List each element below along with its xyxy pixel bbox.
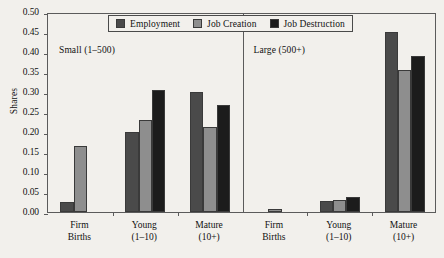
bar bbox=[333, 200, 346, 212]
legend-swatch-icon bbox=[116, 19, 125, 28]
y-axis-tick-label: 0.30 bbox=[5, 88, 39, 98]
x-axis-tick-mark bbox=[113, 212, 114, 216]
panel-title: Small (1–500) bbox=[59, 45, 115, 55]
bar bbox=[125, 132, 138, 212]
y-axis-tick-label: 0.35 bbox=[5, 68, 39, 78]
legend-label: Job Creation bbox=[207, 19, 256, 29]
bar bbox=[268, 209, 281, 212]
y-axis-tick-label: 0.05 bbox=[5, 188, 39, 198]
y-axis-tick-mark bbox=[44, 134, 48, 135]
legend-label: Job Destruction bbox=[284, 19, 345, 29]
x-axis-tick-mark bbox=[178, 212, 179, 216]
chart-legend: EmploymentJob CreationJob Destruction bbox=[108, 15, 353, 32]
panel-divider bbox=[243, 14, 244, 212]
legend-item[interactable]: Job Destruction bbox=[270, 19, 345, 29]
y-axis-tick-mark bbox=[44, 54, 48, 55]
y-axis-tick-mark bbox=[44, 14, 48, 15]
bar bbox=[139, 120, 152, 212]
y-axis-tick-label: 0.50 bbox=[5, 8, 39, 18]
bar bbox=[398, 70, 411, 212]
x-axis-tick-label-line: Mature bbox=[364, 220, 444, 232]
bar bbox=[217, 105, 230, 212]
bar bbox=[203, 127, 216, 212]
legend-label: Employment bbox=[130, 19, 180, 29]
x-axis-tick-mark bbox=[372, 212, 373, 216]
y-axis-tick-mark bbox=[44, 114, 48, 115]
y-axis-tick-mark bbox=[44, 174, 48, 175]
y-axis-tick-mark bbox=[44, 154, 48, 155]
y-axis-tick-mark bbox=[44, 194, 48, 195]
x-axis-tick-label: Mature(10+) bbox=[364, 220, 444, 243]
bar bbox=[152, 90, 165, 212]
bar bbox=[385, 32, 398, 212]
bar bbox=[60, 202, 73, 212]
y-axis-tick-label: 0.00 bbox=[5, 208, 39, 218]
bar bbox=[346, 197, 359, 212]
legend-item[interactable]: Job Creation bbox=[193, 19, 256, 29]
panel-title: Large (500+) bbox=[254, 45, 306, 55]
legend-swatch-icon bbox=[270, 19, 279, 28]
y-axis-tick-mark bbox=[44, 34, 48, 35]
x-axis-tick-mark bbox=[307, 212, 308, 216]
bar bbox=[190, 92, 203, 212]
plot-area: Small (1–500)Large (500+) bbox=[47, 13, 436, 213]
y-axis-tick-label: 0.10 bbox=[5, 168, 39, 178]
y-axis-tick-labels: 0.500.450.400.350.300.250.200.150.100.05… bbox=[5, 0, 39, 258]
y-axis-tick-label: 0.25 bbox=[5, 108, 39, 118]
legend-item[interactable]: Employment bbox=[116, 19, 180, 29]
y-axis-tick-label: 0.45 bbox=[5, 28, 39, 38]
y-axis-tick-label: 0.20 bbox=[5, 128, 39, 138]
legend-swatch-icon bbox=[193, 19, 202, 28]
chart-figure: Shares 0.500.450.400.350.300.250.200.150… bbox=[0, 0, 444, 258]
y-axis-tick-label: 0.15 bbox=[5, 148, 39, 158]
y-axis-tick-mark bbox=[44, 94, 48, 95]
y-axis-tick-label: 0.40 bbox=[5, 48, 39, 58]
bar bbox=[74, 146, 87, 212]
y-axis-tick-mark bbox=[44, 74, 48, 75]
bar bbox=[411, 56, 424, 212]
x-axis-tick-label-line: (10+) bbox=[364, 232, 444, 244]
y-axis-tick-mark bbox=[44, 214, 48, 215]
bar bbox=[320, 201, 333, 212]
